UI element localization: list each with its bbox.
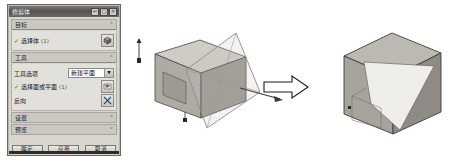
restore-button[interactable]: ↩ [91,8,99,16]
select-face-icon[interactable] [101,80,114,93]
before-model [137,33,284,128]
select-face-count: (1) [59,84,67,90]
section-header-tool[interactable]: 工具 ˄ [11,52,117,63]
check-icon-select-face: ✓ [14,84,19,90]
chevron-up-icon-target[interactable]: ˄ [110,22,113,28]
section-header-settings[interactable]: 设置 ˅ [11,112,117,123]
section-label-tool: 工具 [15,55,27,61]
dialog-titlebar[interactable]: 修剪体 ↩ □ ✕ [9,6,119,17]
reverse-direction-row[interactable]: 反向 [14,94,114,107]
chevron-down-icon-preview[interactable]: ˅ [110,127,113,133]
screenshot-root: 修剪体 ↩ □ ✕ 目标 ˄ ✓ 选择体 (1) [0,0,458,165]
tool-option-select[interactable]: 新建平面 ▼ [68,68,114,78]
dialog-title: 修剪体 [12,9,30,15]
select-body-icon[interactable] [101,34,114,47]
reverse-direction-label: 反向 [14,97,26,104]
select-body-label: 选择体 [21,37,39,44]
titlebar-buttons: ↩ □ ✕ [91,8,117,16]
section-header-target[interactable]: 目标 ˄ [11,19,117,30]
tool-option-row[interactable]: 工具选项 新建平面 ▼ [14,67,114,79]
section-panel-target: ✓ 选择体 (1) [11,31,117,51]
dialog-footer-bar [9,151,119,154]
section-label-settings: 设置 [15,115,27,121]
tool-option-label: 工具选项 [14,70,38,77]
section-panel-tool: 工具选项 新建平面 ▼ ✓ 选择面或平面 (1) [11,64,117,111]
after-model [344,33,441,134]
select-face-row[interactable]: ✓ 选择面或平面 (1) [14,80,114,93]
chevron-up-icon-tool[interactable]: ˄ [110,55,113,61]
select-body-row[interactable]: ✓ 选择体 (1) [14,34,114,47]
reverse-direction-icon[interactable] [101,94,114,107]
section-label-preview: 预览 [15,127,27,133]
chevron-down-icon-tool-option[interactable]: ▼ [104,69,113,77]
transform-arrow [264,76,308,98]
select-face-label: 选择面或平面 [21,83,57,90]
check-icon-select-body: ✓ [14,38,19,44]
dialog-body: 目标 ˄ ✓ 选择体 (1) [9,17,119,143]
select-body-count: (1) [41,38,49,44]
trim-body-dialog[interactable]: 修剪体 ↩ □ ✕ 目标 ˄ ✓ 选择体 (1) [7,4,121,156]
tool-option-value: 新建平面 [71,70,95,76]
maximize-button[interactable]: □ [100,8,108,16]
section-header-preview[interactable]: 预览 ˅ [11,124,117,135]
section-label-target: 目标 [15,22,27,28]
chevron-down-icon-settings[interactable]: ˅ [110,115,113,121]
close-button[interactable]: ✕ [109,8,117,16]
